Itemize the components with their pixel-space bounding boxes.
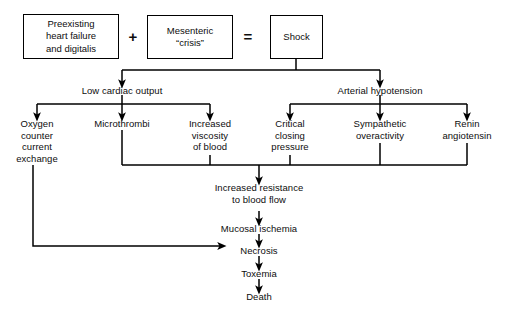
label-sympathetic-overactivity: Sympathetic overactivity <box>332 118 428 141</box>
label-microthrombi: Microthrombi <box>77 118 167 130</box>
flowchart-canvas: Preexisting heart failure and digitalis … <box>0 0 510 324</box>
label-mucosal-ischemia: Mucosal ischemia <box>194 223 324 235</box>
label-critical-closing-pressure: Critical closing pressure <box>250 118 330 153</box>
box-label: Preexisting heart failure and digitalis <box>46 18 96 55</box>
label-necrosis: Necrosis <box>209 245 309 257</box>
box-label: Mesenteric “crisis” <box>167 25 213 49</box>
label-renin-angiotensin: Renin angiotensin <box>425 118 509 141</box>
plus-operator: + <box>124 29 142 44</box>
box-label: Shock <box>283 31 309 43</box>
label-increased-resistance-to-blood-flow: Increased resistance to blood flow <box>189 182 329 205</box>
label-low-cardiac-output: Low cardiac output <box>62 85 182 97</box>
label-toxemia: Toxemia <box>209 268 309 280</box>
label-oxygen-counter-current-exchange: Oxygen counter current exchange <box>0 118 79 164</box>
box-shock[interactable]: Shock <box>270 15 323 59</box>
box-mesenteric-crisis[interactable]: Mesenteric “crisis” <box>147 15 233 59</box>
label-increased-viscosity-of-blood: Increased viscosity of blood <box>166 118 254 153</box>
label-death: Death <box>209 291 309 303</box>
label-arterial-hypotension: Arterial hypotension <box>320 85 440 97</box>
box-preexisting-heart-failure-and-digitalis[interactable]: Preexisting heart failure and digitalis <box>23 14 119 59</box>
equals-operator: = <box>239 29 257 44</box>
